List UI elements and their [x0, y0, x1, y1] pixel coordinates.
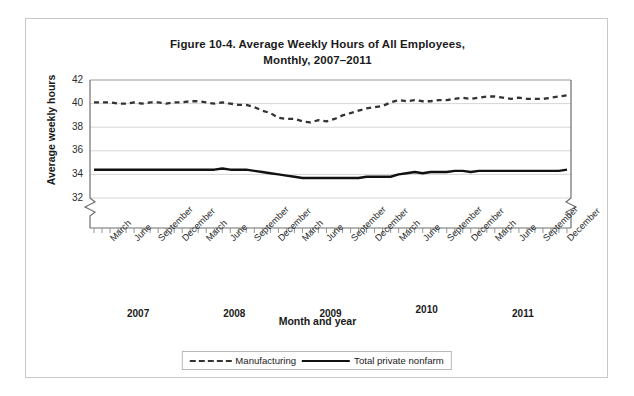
- y-tick-label-32: 32: [59, 192, 83, 203]
- y-tick-label-34: 34: [59, 168, 83, 179]
- solid-line-swatch-icon: [302, 360, 350, 362]
- y-tick-label-40: 40: [59, 97, 83, 108]
- legend-entry-total-private-nonfarm: Total private nonfarm: [302, 355, 444, 366]
- series-line-total-private-nonfarm: [94, 169, 567, 178]
- series-line-manufacturing: [94, 95, 567, 122]
- gridlines: [90, 80, 571, 198]
- chart-legend: Manufacturing Total private nonfarm: [181, 351, 451, 370]
- legend-entry-manufacturing: Manufacturing: [189, 355, 296, 366]
- y-tick-label-36: 36: [59, 144, 83, 155]
- series-layer: [94, 95, 567, 178]
- dashed-line-swatch-icon: [189, 360, 231, 362]
- y-tick-label-38: 38: [59, 121, 83, 132]
- x-axis-title: Month and year: [26, 315, 609, 327]
- y-axis-left-with-break: [85, 80, 95, 228]
- legend-label-manufacturing: Manufacturing: [235, 355, 296, 366]
- y-tick-label-42: 42: [59, 74, 83, 85]
- legend-label-total-private-nonfarm: Total private nonfarm: [354, 355, 444, 366]
- figure-frame: Figure 10-4. Average Weekly Hours of All…: [25, 18, 608, 378]
- year-label-2010: 2010: [397, 304, 457, 315]
